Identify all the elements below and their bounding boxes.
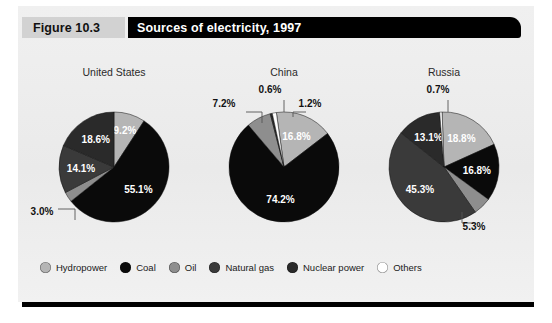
pie-slice-label: 74.2% bbox=[266, 194, 294, 205]
pie-canvas: 18.8%16.8%45.3%13.1%5.3%0.7% bbox=[358, 60, 530, 240]
legend-item-label: Oil bbox=[185, 262, 197, 273]
pie-slice-label: 18.6% bbox=[82, 134, 110, 145]
pie-canvas: 9.2%55.1%14.1%18.6%3.0% bbox=[28, 60, 200, 240]
legend-item-label: Nuclear power bbox=[303, 262, 364, 273]
pie-charts-row: United States 9.2%55.1%14.1%18.6%3.0% Ch… bbox=[18, 60, 534, 240]
legend-swatch-icon bbox=[287, 262, 298, 273]
legend-item: Natural gas bbox=[209, 262, 274, 273]
bottom-rule bbox=[22, 302, 534, 307]
legend-item: Oil bbox=[169, 262, 197, 273]
pie-slice-label: 1.2% bbox=[299, 98, 322, 109]
legend-swatch-icon bbox=[120, 262, 131, 273]
legend-item-label: Others bbox=[393, 262, 422, 273]
figure-panel: Figure 10.3 Sources of electricity, 1997… bbox=[0, 0, 552, 323]
legend-item: Others bbox=[377, 262, 422, 273]
legend-item-label: Hydropower bbox=[56, 262, 107, 273]
pie-slice-label: 0.6% bbox=[259, 84, 282, 95]
pie-slice-label: 14.1% bbox=[67, 163, 95, 174]
pie-slice-label: 5.3% bbox=[463, 221, 486, 232]
legend-item: Nuclear power bbox=[287, 262, 364, 273]
pie-slice-label: 13.1% bbox=[414, 132, 442, 143]
pie-slice-label: 45.3% bbox=[406, 184, 434, 195]
legend-swatch-icon bbox=[377, 262, 388, 273]
pie-slice-label: 16.8% bbox=[463, 165, 491, 176]
pie-chart-china: China 16.8%74.2%7.2%0.6%1.2% bbox=[198, 60, 370, 240]
legend-item-label: Natural gas bbox=[225, 262, 274, 273]
figure-number-label: Figure 10.3 bbox=[33, 21, 100, 35]
figure-title-label: Sources of electricity, 1997 bbox=[137, 21, 301, 35]
legend-item-label: Coal bbox=[136, 262, 156, 273]
pie-slice-label: 18.8% bbox=[447, 133, 475, 144]
figure-number-box: Figure 10.3 bbox=[22, 17, 125, 38]
legend-swatch-icon bbox=[169, 262, 180, 273]
chart-legend: HydropowerCoalOilNatural gasNuclear powe… bbox=[18, 255, 534, 279]
pie-chart-russia: Russia 18.8%16.8%45.3%13.1%5.3%0.7% bbox=[358, 60, 530, 240]
pie-slice-label: 7.2% bbox=[213, 98, 236, 109]
pie-slice-label: 3.0% bbox=[31, 206, 54, 217]
figure-title-bar: Sources of electricity, 1997 bbox=[128, 17, 521, 38]
legend-item: Hydropower bbox=[40, 262, 107, 273]
pie-canvas: 16.8%74.2%7.2%0.6%1.2% bbox=[198, 60, 370, 240]
legend-item: Coal bbox=[120, 262, 156, 273]
pie-label-leader-line bbox=[58, 209, 75, 220]
pie-chart-united-states: United States 9.2%55.1%14.1%18.6%3.0% bbox=[28, 60, 200, 240]
pie-slice-label: 9.2% bbox=[114, 125, 137, 136]
pie-slice-label: 16.8% bbox=[282, 131, 310, 142]
pie-slice-label: 0.7% bbox=[427, 84, 450, 95]
legend-swatch-icon bbox=[209, 262, 220, 273]
legend-swatch-icon bbox=[40, 262, 51, 273]
pie-slice-label: 55.1% bbox=[124, 184, 152, 195]
